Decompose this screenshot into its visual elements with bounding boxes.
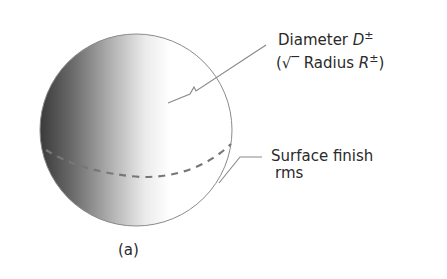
sphere [40, 34, 232, 226]
diameter-text: Diameter [278, 31, 353, 49]
radius-symbol: R [359, 54, 369, 72]
radius-label: (√‾ Radius R±) [276, 56, 384, 71]
sphere-diagram [0, 0, 447, 279]
diameter-symbol: D [353, 31, 365, 49]
diameter-tolerance: ± [364, 29, 373, 42]
surface-finish-rms-label: rms [275, 166, 303, 181]
figure-caption: (a) [118, 243, 139, 258]
radius-text: Radius [299, 54, 359, 72]
surface-finish-label: Surface finish [271, 149, 373, 164]
diameter-label: Diameter D± [278, 33, 374, 48]
radius-close-paren: ) [378, 54, 384, 72]
check-mark-icon: √‾ [282, 54, 299, 72]
